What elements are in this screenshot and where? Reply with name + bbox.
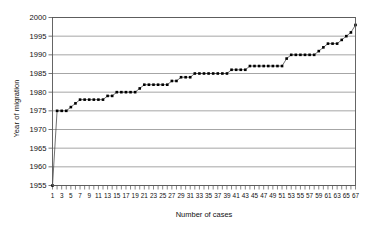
data-point bbox=[60, 110, 63, 113]
y-tick-label: 1970 bbox=[30, 125, 47, 134]
data-point bbox=[56, 110, 59, 113]
gridlines-group bbox=[53, 18, 356, 186]
y-tick-label: 1995 bbox=[30, 32, 47, 41]
data-point bbox=[203, 72, 206, 75]
data-point bbox=[125, 91, 128, 94]
x-tick-label: 65 bbox=[343, 192, 351, 199]
data-point bbox=[115, 91, 118, 94]
x-tick-label: 23 bbox=[150, 192, 158, 199]
data-point bbox=[93, 98, 96, 101]
data-point bbox=[345, 35, 348, 38]
x-tick-label: 9 bbox=[87, 192, 91, 199]
y-tick-label: 1965 bbox=[30, 144, 47, 153]
y-tick-label: 1980 bbox=[30, 88, 47, 97]
data-point bbox=[253, 65, 256, 68]
data-point bbox=[143, 83, 146, 86]
data-point bbox=[83, 98, 86, 101]
data-point bbox=[258, 65, 261, 68]
data-point bbox=[235, 68, 238, 71]
data-point bbox=[212, 72, 215, 75]
x-tick-label: 3 bbox=[60, 192, 64, 199]
y-tick-label: 2000 bbox=[30, 13, 47, 22]
x-tick-label: 15 bbox=[113, 192, 121, 199]
data-point bbox=[161, 83, 164, 86]
data-point bbox=[226, 72, 229, 75]
data-point bbox=[194, 72, 197, 75]
x-tick-label: 33 bbox=[196, 192, 204, 199]
x-tick-label: 63 bbox=[334, 192, 342, 199]
x-tick-label: 17 bbox=[122, 192, 130, 199]
data-point bbox=[111, 95, 114, 98]
data-point bbox=[70, 106, 73, 109]
data-point bbox=[244, 68, 247, 71]
plot-frame bbox=[53, 18, 356, 186]
x-tick-label: 29 bbox=[177, 192, 185, 199]
data-series-line bbox=[53, 25, 356, 186]
x-tick-label: 1 bbox=[51, 192, 55, 199]
x-tick-label: 19 bbox=[132, 192, 140, 199]
data-point bbox=[189, 76, 192, 79]
data-point bbox=[74, 102, 77, 105]
data-point bbox=[157, 83, 160, 86]
data-point bbox=[281, 65, 284, 68]
data-point bbox=[285, 57, 288, 60]
data-point bbox=[299, 54, 302, 57]
data-point bbox=[249, 65, 252, 68]
data-point bbox=[134, 91, 137, 94]
data-point bbox=[106, 95, 109, 98]
data-point bbox=[138, 87, 141, 90]
y-tick-label: 1960 bbox=[30, 162, 47, 171]
data-point bbox=[331, 42, 334, 45]
data-point bbox=[308, 54, 311, 57]
data-point bbox=[102, 98, 105, 101]
data-point bbox=[276, 65, 279, 68]
data-point bbox=[340, 39, 343, 42]
x-tick-label: 5 bbox=[69, 192, 73, 199]
x-tick-label: 31 bbox=[187, 192, 195, 199]
data-point bbox=[148, 83, 151, 86]
data-point bbox=[171, 80, 174, 83]
y-axis-title: Year of migration bbox=[12, 49, 21, 169]
x-tick-label: 57 bbox=[306, 192, 314, 199]
data-point bbox=[175, 80, 178, 83]
x-tick-label: 43 bbox=[242, 192, 250, 199]
data-point bbox=[88, 98, 91, 101]
data-point bbox=[216, 72, 219, 75]
data-point bbox=[336, 42, 339, 45]
y-tick-label: 1990 bbox=[30, 50, 47, 59]
y-tick-label: 1955 bbox=[30, 181, 47, 190]
data-point bbox=[304, 54, 307, 57]
x-tick-label: 27 bbox=[168, 192, 176, 199]
data-point bbox=[239, 68, 242, 71]
plot-surface: 1955196019651970197519801985199019952000… bbox=[0, 0, 378, 228]
x-tick-label: 47 bbox=[260, 192, 268, 199]
y-tick-label: 1985 bbox=[30, 69, 47, 78]
x-tick-label: 53 bbox=[288, 192, 296, 199]
data-point bbox=[198, 72, 201, 75]
y-axis-ticks-group bbox=[49, 18, 53, 186]
data-point bbox=[290, 54, 293, 57]
x-tick-label: 11 bbox=[95, 192, 102, 199]
x-tick-label: 61 bbox=[324, 192, 332, 199]
x-tick-label: 41 bbox=[233, 192, 241, 199]
data-point bbox=[313, 54, 316, 57]
x-tick-label: 55 bbox=[297, 192, 305, 199]
data-point bbox=[267, 65, 270, 68]
data-point bbox=[272, 65, 275, 68]
data-point bbox=[97, 98, 100, 101]
data-point bbox=[317, 50, 320, 53]
data-point bbox=[120, 91, 123, 94]
x-tick-label: 13 bbox=[104, 192, 112, 199]
data-point bbox=[207, 72, 210, 75]
x-axis-ticks-group bbox=[53, 186, 356, 190]
data-series-markers bbox=[51, 24, 357, 187]
x-tick-label: 67 bbox=[352, 192, 360, 199]
x-tick-label: 37 bbox=[214, 192, 222, 199]
data-point bbox=[295, 54, 298, 57]
data-point bbox=[65, 110, 68, 113]
x-tick-label: 39 bbox=[223, 192, 231, 199]
data-point bbox=[230, 68, 233, 71]
x-tick-label: 21 bbox=[141, 192, 149, 199]
x-axis-title: Number of cases bbox=[52, 210, 356, 219]
data-point bbox=[184, 76, 187, 79]
